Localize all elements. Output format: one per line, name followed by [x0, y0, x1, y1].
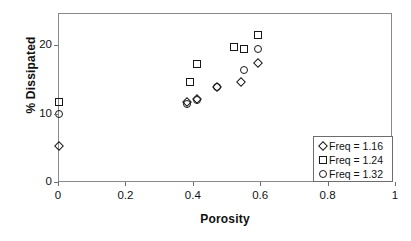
x-tick-label: 0.4 — [173, 190, 213, 201]
x-tick-mark — [58, 182, 59, 186]
legend-label: Freq = 1.16 — [329, 141, 383, 152]
data-point — [186, 78, 194, 86]
data-point — [253, 58, 263, 68]
data-point — [254, 45, 262, 53]
y-tick-label: 0 — [22, 176, 52, 187]
x-tick-label: 1 — [375, 190, 411, 201]
legend-marker-diamond-icon — [317, 140, 329, 152]
x-tick-label: 0.8 — [308, 190, 348, 201]
x-tick-label: 0.2 — [105, 190, 145, 201]
legend-label: Freq = 1.24 — [329, 155, 383, 166]
x-axis-title: Porosity — [58, 212, 392, 226]
y-tick-mark — [54, 114, 58, 115]
data-point — [240, 45, 248, 53]
scatter-chart: 01020 00.20.40.60.81 % Dissipated Porosi… — [0, 0, 411, 241]
legend-label: Freq = 1.32 — [329, 169, 383, 180]
x-tick-mark — [193, 182, 194, 186]
data-point — [193, 96, 201, 104]
data-point — [54, 141, 64, 151]
x-tick-label: 0.6 — [240, 190, 280, 201]
legend-item: Freq = 1.24 — [317, 153, 392, 167]
legend-marker-circle-icon — [317, 168, 329, 180]
data-point — [55, 98, 63, 106]
data-point — [230, 43, 238, 51]
legend: Freq = 1.16Freq = 1.24Freq = 1.32 — [313, 136, 393, 182]
x-tick-mark — [395, 182, 396, 186]
y-tick-mark — [54, 45, 58, 46]
data-point — [254, 31, 262, 39]
x-tick-label: 0 — [38, 190, 78, 201]
legend-item: Freq = 1.32 — [317, 167, 392, 181]
x-tick-mark — [328, 182, 329, 186]
legend-marker-square-icon — [317, 154, 329, 166]
data-point — [213, 83, 221, 91]
data-point — [236, 77, 246, 87]
x-tick-mark — [125, 182, 126, 186]
data-point — [240, 66, 248, 74]
x-tick-mark — [260, 182, 261, 186]
legend-item: Freq = 1.16 — [317, 139, 392, 153]
data-point — [193, 60, 201, 68]
data-point — [183, 100, 191, 108]
y-axis-title: % Dissipated — [24, 20, 38, 130]
